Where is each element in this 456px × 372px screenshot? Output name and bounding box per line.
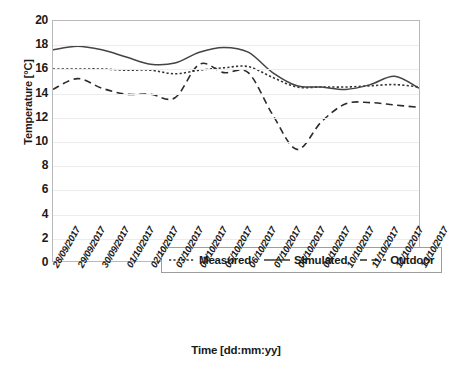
y-tick-label: 2 (20, 233, 48, 243)
gridline (53, 166, 419, 167)
y-tick-label: 20 (20, 15, 48, 25)
gridline (53, 190, 419, 191)
y-tick-label: 4 (20, 209, 48, 219)
y-tick-label: 0 (20, 257, 48, 267)
y-axis-tick-labels: 20181614121086420 (18, 0, 48, 372)
series-line-simulated (53, 46, 419, 89)
y-tick-label: 16 (20, 63, 48, 73)
y-tick-label: 14 (20, 88, 48, 98)
temperature-time-series-chart: Temperature [°C] 20181614121086420 Measu… (0, 0, 456, 372)
x-axis-tick-labels: 28/09/201729/09/201730/09/201701/10/2017… (52, 264, 420, 340)
gridline (53, 118, 419, 119)
gridline (53, 142, 419, 143)
x-axis-title: Time [dd:mm:yy] (52, 344, 420, 356)
y-tick-label: 18 (20, 39, 48, 49)
y-tick-label: 6 (20, 184, 48, 194)
series-line-outdoor (53, 63, 419, 149)
y-tick-label: 10 (20, 136, 48, 146)
y-tick-label: 12 (20, 112, 48, 122)
gridline (53, 69, 419, 70)
gridline (53, 94, 419, 95)
gridline (53, 215, 419, 216)
gridline (53, 45, 419, 46)
y-tick-label: 8 (20, 160, 48, 170)
series-lines-svg (53, 21, 419, 261)
